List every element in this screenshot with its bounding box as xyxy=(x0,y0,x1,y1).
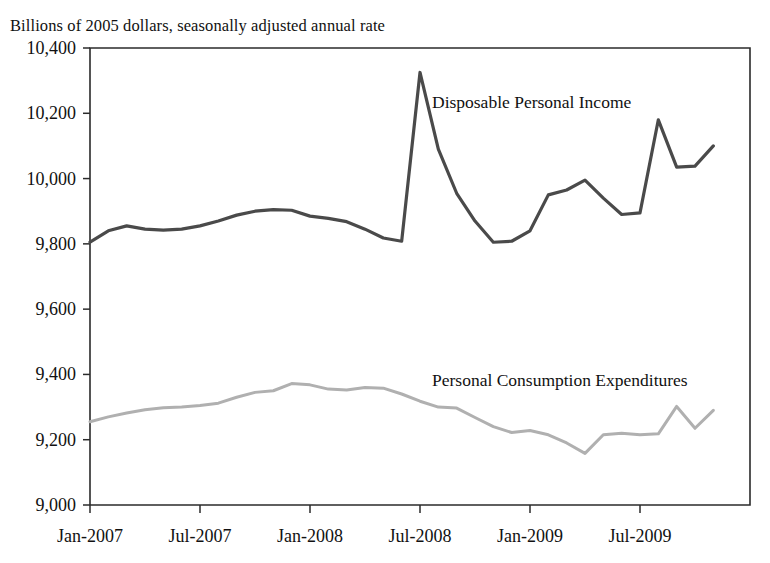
x-axis-tick-label: Jul-2008 xyxy=(389,526,452,546)
x-axis-tick-label: Jan-2009 xyxy=(497,526,563,546)
chart-plot-area: 9,0009,2009,4009,6009,80010,00010,20010,… xyxy=(0,0,770,563)
y-axis-tick-label: 9,200 xyxy=(36,430,77,450)
y-axis-tick-label: 9,800 xyxy=(36,234,77,254)
x-axis-tick-label: Jan-2008 xyxy=(277,526,343,546)
y-axis-tick-label: 10,400 xyxy=(27,38,77,58)
data-series-group xyxy=(90,72,713,453)
x-axis-tick-label: Jul-2007 xyxy=(169,526,232,546)
chart-figure: Billions of 2005 dollars, seasonally adj… xyxy=(0,0,770,563)
y-axis-tick-label: 9,000 xyxy=(36,495,77,515)
y-axis-tick-label: 9,600 xyxy=(36,299,77,319)
plot-frame xyxy=(90,48,750,505)
y-axis-tick-label: 10,000 xyxy=(27,169,77,189)
series-line-personal-consumption-expenditures xyxy=(90,384,713,454)
series-label-disposable-personal-income: Disposable Personal Income xyxy=(432,92,631,112)
x-axis-tick-labels: Jan-2007Jul-2007Jan-2008Jul-2008Jan-2009… xyxy=(57,505,672,546)
series-annotation-labels: Disposable Personal IncomePersonal Consu… xyxy=(432,92,688,389)
series-label-personal-consumption-expenditures: Personal Consumption Expenditures xyxy=(432,370,688,390)
axis-lines xyxy=(90,48,750,505)
y-axis-tick-label: 9,400 xyxy=(36,364,77,384)
y-axis-tick-labels: 9,0009,2009,4009,6009,80010,00010,20010,… xyxy=(27,38,91,515)
y-axis-tick-label: 10,200 xyxy=(27,103,77,123)
x-axis-tick-label: Jul-2009 xyxy=(609,526,672,546)
x-axis-tick-label: Jan-2007 xyxy=(57,526,123,546)
